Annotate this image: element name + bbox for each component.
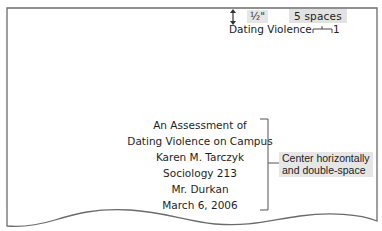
title-block: An Assessment of Dating Violence on Camp… [120,117,280,214]
page-number: 1 [333,23,340,36]
title-line-2: Dating Violence on Campus [120,133,280,149]
bracket-gap-icon [312,26,333,34]
instructor-name: Mr. Durkan [120,181,280,197]
course-name: Sociology 213 [120,165,280,181]
running-head: Dating Violence [229,23,312,36]
top-margin-label: ½" [247,10,268,23]
title-line-1: An Assessment of [120,117,280,133]
note-line-1: Center horizontally [282,153,370,165]
center-double-space-note: Center horizontally and double-space [279,152,373,177]
author-name: Karen M. Tarczyk [120,149,280,165]
note-line-2: and double-space [282,165,370,177]
indent-spaces-label: 5 spaces [289,9,347,23]
date: March 6, 2006 [120,197,280,213]
